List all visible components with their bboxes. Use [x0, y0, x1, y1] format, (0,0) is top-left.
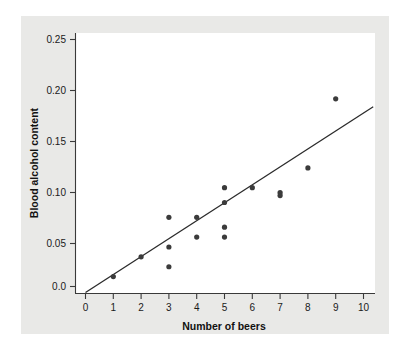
data-point	[222, 225, 227, 230]
data-point	[166, 244, 171, 249]
plot-area-background	[75, 33, 375, 293]
data-point	[166, 215, 171, 220]
x-tick-label: 0	[83, 302, 89, 313]
data-point	[278, 193, 283, 198]
x-tick-label: 4	[194, 302, 200, 313]
data-point	[111, 274, 116, 279]
y-tick-label: 0.05	[47, 238, 67, 249]
y-tick-label: 0.20	[47, 85, 67, 96]
x-tick-label: 7	[277, 302, 283, 313]
scatter-plot: 0.25 0.20 0.15 0.10 0.05 0.0 Blood alcoh…	[0, 0, 406, 347]
data-point	[305, 165, 310, 170]
data-point	[194, 215, 199, 220]
x-tick-label: 3	[166, 302, 172, 313]
x-tick-label: 2	[138, 302, 144, 313]
y-axis-tick-labels: 0.25 0.20 0.15 0.10 0.05 0.0	[47, 34, 67, 292]
y-tick-label: 0.10	[47, 187, 67, 198]
x-tick-label: 10	[358, 302, 370, 313]
y-axis-title: Blood alcohol content	[28, 107, 40, 218]
x-axis-tick-labels: 0 1 2 3 4 5 6 7 8 9 10	[83, 302, 370, 313]
data-point	[222, 235, 227, 240]
data-point	[222, 200, 227, 205]
x-tick-label: 1	[111, 302, 117, 313]
x-axis-title: Number of beers	[182, 320, 266, 332]
y-tick-label: 0.25	[47, 34, 67, 45]
data-point	[222, 185, 227, 190]
y-tick-label: 0.15	[47, 136, 67, 147]
x-tick-label: 8	[305, 302, 311, 313]
x-tick-label: 6	[250, 302, 256, 313]
y-axis: 0.25 0.20 0.15 0.10 0.05 0.0 Blood alcoh…	[28, 33, 76, 294]
data-point	[166, 264, 171, 269]
x-tick-label: 5	[222, 302, 228, 313]
x-axis: 0 1 2 3 4 5 6 7 8 9 10 Number of beers	[75, 294, 375, 333]
data-point	[333, 96, 338, 101]
data-point	[194, 235, 199, 240]
y-axis-ticks	[70, 40, 76, 287]
x-tick-label: 9	[333, 302, 339, 313]
data-point	[250, 185, 255, 190]
x-axis-ticks	[86, 294, 364, 300]
figure-container: 0.25 0.20 0.15 0.10 0.05 0.0 Blood alcoh…	[0, 0, 406, 347]
data-point	[139, 254, 144, 259]
y-tick-label: 0.0	[52, 281, 66, 292]
